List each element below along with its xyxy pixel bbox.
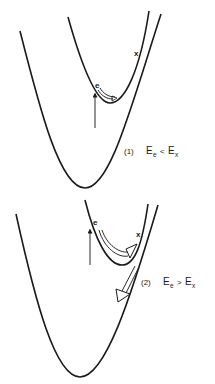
caption-lhs-sub: e <box>153 151 157 158</box>
lower-potential-curve <box>20 14 161 188</box>
diagram-canvas: x e (1) E e < E x e x <box>0 0 215 384</box>
caption-rhs-sub: x <box>175 151 179 158</box>
crossing-label: x <box>136 230 141 239</box>
caption-lhs: E <box>146 145 153 156</box>
caption-2: (2) E e > E x <box>141 276 196 289</box>
electron-label: e <box>93 218 98 227</box>
caption-rhs: E <box>185 276 192 287</box>
panel-2: e x (2) E e > E x <box>16 200 196 377</box>
caption-lhs: E <box>163 276 170 287</box>
caption-number: (2) <box>141 278 151 287</box>
hollow-arrow-to-crossing <box>99 230 137 258</box>
hollow-arrow-down-lower-curve <box>116 266 139 302</box>
caption-relation: > <box>177 278 182 287</box>
crossing-label: x <box>134 49 139 58</box>
caption-number: (1) <box>124 147 134 156</box>
panel-1: x e (1) E e < E x <box>20 11 179 188</box>
electron-label: e <box>95 81 100 90</box>
oscillation-arrow <box>98 88 117 101</box>
caption-rhs: E <box>168 145 175 156</box>
caption-lhs-sub: e <box>170 282 174 289</box>
caption-1: (1) E e < E x <box>124 145 179 158</box>
caption-relation: < <box>160 147 165 156</box>
caption-rhs-sub: x <box>192 282 196 289</box>
